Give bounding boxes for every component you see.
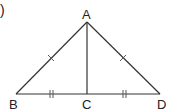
prefix-mark: ) bbox=[0, 2, 5, 18]
label-c: C bbox=[82, 97, 91, 111]
label-d: D bbox=[157, 97, 166, 111]
triangle-diagram: ) A B C D bbox=[0, 0, 170, 111]
label-a: A bbox=[82, 7, 91, 22]
label-b: B bbox=[9, 97, 18, 111]
